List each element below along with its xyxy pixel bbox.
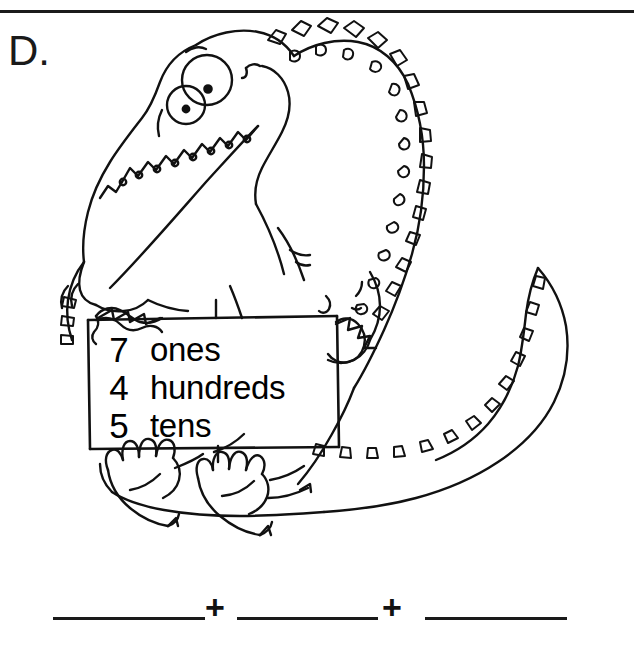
sign-word: hundreds	[150, 368, 285, 408]
sign-digit: 7	[88, 330, 150, 370]
worksheet-page: D.	[0, 0, 634, 646]
place-value-sign: 7 ones 4 hundreds 5 tens	[88, 318, 340, 450]
third-addend-blank[interactable]	[425, 617, 567, 620]
sign-digit: 4	[88, 368, 150, 408]
answer-equation-row: + +	[0, 584, 634, 628]
first-addend-blank[interactable]	[53, 617, 205, 620]
sign-row: 5 tens	[88, 406, 340, 446]
top-divider-rule	[0, 10, 634, 13]
sign-row: 7 ones	[88, 330, 340, 370]
sign-word: ones	[150, 330, 220, 370]
second-addend-blank[interactable]	[237, 617, 378, 620]
sign-word: tens	[150, 406, 211, 446]
sign-row: 4 hundreds	[88, 368, 340, 408]
sign-digit: 5	[88, 406, 150, 446]
problem-letter-label: D.	[8, 28, 50, 74]
plus-operator-1: +	[205, 590, 225, 624]
plus-operator-2: +	[382, 590, 402, 624]
